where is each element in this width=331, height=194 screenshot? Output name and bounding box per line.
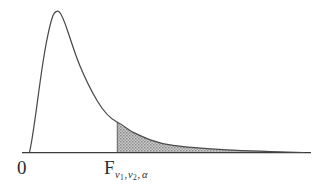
f-symbol: F (104, 157, 115, 178)
distribution-plot (0, 0, 331, 194)
alpha-symbol: α (141, 169, 148, 180)
critical-value-subscript: ν1,ν2,α (115, 169, 148, 180)
density-curve (30, 11, 305, 152)
critical-value-label: Fν1,ν2,α (104, 158, 147, 177)
nu-index-second: 2 (133, 173, 137, 182)
f-distribution-figure: 0 Fν1,ν2,α (0, 0, 331, 194)
nu-index-first: 1 (120, 173, 124, 182)
origin-label: 0 (17, 158, 27, 177)
